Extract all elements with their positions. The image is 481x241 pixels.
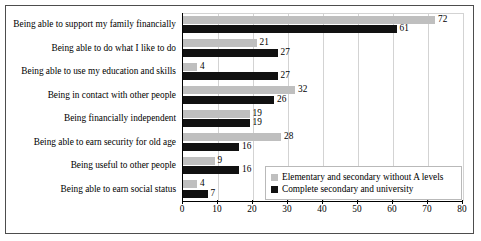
bar-complete[interactable]: 26 xyxy=(183,96,274,104)
bar-value-label: 26 xyxy=(277,95,286,104)
bar-value-label: 16 xyxy=(242,165,251,174)
bar-value-label: 9 xyxy=(218,156,223,165)
bar-value-label: 4 xyxy=(200,62,205,71)
bar-elementary[interactable]: 4 xyxy=(183,180,197,188)
bar-value-label: 16 xyxy=(242,142,251,151)
category-label: Being able to use my education and skill… xyxy=(21,60,183,84)
legend-label: Elementary and secondary without A level… xyxy=(282,171,443,183)
x-axis: 01020304050607080 xyxy=(182,204,462,222)
bar-value-label: 27 xyxy=(281,48,290,57)
bar-value-label: 4 xyxy=(200,179,205,188)
bar-value-label: 32 xyxy=(298,85,307,94)
bar-elementary[interactable]: 4 xyxy=(183,63,197,71)
x-tick-label: 40 xyxy=(317,204,326,214)
bar-complete[interactable]: 27 xyxy=(183,49,278,57)
x-tick-label: 70 xyxy=(422,204,431,214)
bar-row: Being in contact with other people3226 xyxy=(183,84,463,108)
bar-complete[interactable]: 7 xyxy=(183,190,208,198)
category-label: Being able to earn security for old age xyxy=(34,131,183,155)
bar-row: Being able to use my education and skill… xyxy=(183,60,463,84)
bar-value-label: 21 xyxy=(260,38,269,47)
category-label: Being in contact with other people xyxy=(48,84,183,108)
bar-value-label: 27 xyxy=(281,71,290,80)
chart-frame: Being able to support my family financia… xyxy=(5,5,474,234)
legend-item: Complete secondary and university xyxy=(271,183,456,195)
category-label: Being able to earn social status xyxy=(61,178,183,202)
bar-complete[interactable]: 61 xyxy=(183,25,397,33)
bar-value-label: 72 xyxy=(438,15,447,24)
x-tick-label: 20 xyxy=(247,204,256,214)
x-tick-label: 80 xyxy=(457,204,466,214)
bar-value-label: 28 xyxy=(284,132,293,141)
bar-elementary[interactable]: 32 xyxy=(183,86,295,94)
gridline xyxy=(463,13,464,201)
bar-value-label: 7 xyxy=(211,189,216,198)
bar-row: Being able to earn security for old age2… xyxy=(183,131,463,155)
bar-complete[interactable]: 19 xyxy=(183,119,250,127)
bar-row: Being able to support my family financia… xyxy=(183,13,463,37)
bar-row: Being financially independent1919 xyxy=(183,107,463,131)
category-label: Being useful to other people xyxy=(71,154,183,178)
chart-legend: Elementary and secondary without A level… xyxy=(265,166,462,200)
x-tick-label: 50 xyxy=(352,204,361,214)
bar-complete[interactable]: 16 xyxy=(183,143,239,151)
legend-label: Complete secondary and university xyxy=(282,183,413,195)
bar-elementary[interactable]: 21 xyxy=(183,39,257,47)
legend-swatch-icon xyxy=(271,186,278,193)
category-label: Being able to do what I like to do xyxy=(52,37,183,61)
x-tick-label: 0 xyxy=(180,204,185,214)
x-tick-label: 60 xyxy=(387,204,396,214)
bar-complete[interactable]: 27 xyxy=(183,72,278,80)
legend-item: Elementary and secondary without A level… xyxy=(271,171,456,183)
bar-elementary[interactable]: 28 xyxy=(183,133,281,141)
category-label: Being able to support my family financia… xyxy=(13,13,183,37)
x-tick-label: 10 xyxy=(212,204,221,214)
legend-swatch-icon xyxy=(271,174,278,181)
bar-row: Being able to do what I like to do2127 xyxy=(183,37,463,61)
bar-elementary[interactable]: 9 xyxy=(183,157,215,165)
bar-value-label: 61 xyxy=(400,24,409,33)
bar-value-label: 19 xyxy=(253,118,262,127)
bar-elementary[interactable]: 72 xyxy=(183,16,435,24)
bar-elementary[interactable]: 19 xyxy=(183,110,250,118)
bar-complete[interactable]: 16 xyxy=(183,166,239,174)
category-label: Being financially independent xyxy=(64,107,183,131)
x-tick-label: 30 xyxy=(282,204,291,214)
